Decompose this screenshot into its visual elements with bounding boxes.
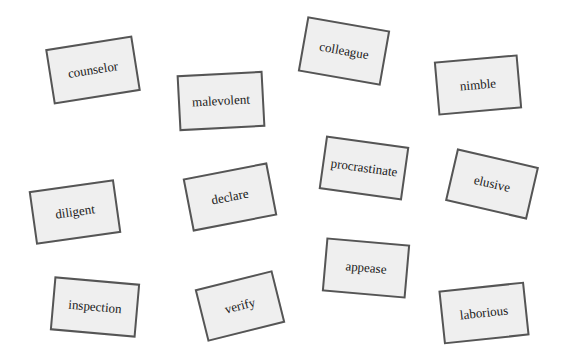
word-card-label: inspection: [68, 297, 123, 318]
word-card-label: elusive: [472, 172, 511, 196]
word-card-label: appease: [345, 258, 387, 278]
word-card-label: procrastinate: [330, 155, 399, 180]
word-card[interactable]: diligent: [29, 179, 122, 244]
word-card[interactable]: inspection: [50, 276, 140, 337]
word-card-label: counselor: [67, 58, 119, 82]
word-card[interactable]: procrastinate: [319, 135, 410, 200]
word-card[interactable]: appease: [322, 237, 410, 298]
word-card[interactable]: verify: [195, 270, 286, 342]
word-card-label: colleague: [318, 39, 370, 63]
word-card-label: laborious: [459, 303, 509, 324]
word-card-canvas: counselor malevolent colleague nimble pr…: [0, 0, 564, 356]
word-card[interactable]: nimble: [434, 54, 522, 115]
word-card-label: declare: [210, 186, 250, 209]
word-card[interactable]: elusive: [445, 148, 539, 220]
word-card[interactable]: declare: [183, 162, 278, 231]
word-card[interactable]: laborious: [438, 282, 529, 345]
word-card-label: malevolent: [192, 91, 251, 110]
word-card[interactable]: colleague: [298, 16, 390, 86]
word-card[interactable]: malevolent: [177, 71, 266, 131]
word-card[interactable]: counselor: [45, 35, 141, 104]
word-card-label: nimble: [459, 75, 496, 94]
word-card-label: verify: [223, 294, 257, 317]
word-card-label: diligent: [54, 201, 96, 222]
